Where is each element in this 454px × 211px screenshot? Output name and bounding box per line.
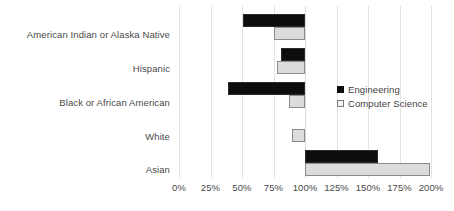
- x-tick-label-0: 0%: [172, 182, 186, 193]
- x-tick-label-25: 25%: [201, 182, 220, 193]
- x-tick-label-125: 125%: [324, 182, 349, 193]
- bar-computer-science: [274, 27, 306, 40]
- bar-engineering: [228, 82, 305, 95]
- x-tick-label-50: 50%: [232, 182, 251, 193]
- legend-swatch-engineering-icon: [337, 86, 344, 93]
- bar-computer-science: [289, 95, 305, 108]
- bar-engineering: [281, 48, 305, 61]
- bar-engineering: [243, 14, 305, 27]
- x-tick-label-200: 200%: [419, 182, 444, 193]
- y-axis-label-3: White: [145, 131, 170, 142]
- legend-item-engineering: Engineering: [337, 82, 428, 96]
- y-axis-label-2: Black or African American: [59, 97, 170, 108]
- legend-label-computer-science: Computer Science: [348, 98, 428, 109]
- chart-container: American Indian or Alaska Native Hispani…: [0, 0, 454, 211]
- legend-label-engineering: Engineering: [348, 84, 400, 95]
- y-axis-category-labels: American Indian or Alaska Native Hispani…: [0, 0, 174, 211]
- bar-computer-science: [292, 129, 305, 142]
- bar-group: [179, 150, 431, 176]
- x-tick-label-100: 100%: [293, 182, 318, 193]
- bar-computer-science: [277, 61, 305, 74]
- y-axis-label-1: Hispanic: [133, 63, 170, 74]
- chart-legend: Engineering Computer Science: [337, 82, 428, 110]
- bar-group: [179, 48, 431, 74]
- bar-computer-science: [305, 163, 430, 176]
- x-tick-label-175: 175%: [387, 182, 412, 193]
- x-tick-label-75: 75%: [264, 182, 283, 193]
- legend-item-computer-science: Computer Science: [337, 96, 428, 110]
- bar-engineering: [305, 150, 378, 163]
- x-axis-tick-labels: 0%25%50%75%100%125%150%175%200%: [0, 182, 454, 198]
- y-axis-label-4: Asian: [146, 164, 170, 175]
- gridline-200: [431, 6, 432, 178]
- bar-group: [179, 116, 431, 142]
- x-tick-label-150: 150%: [356, 182, 381, 193]
- y-axis-label-0: American Indian or Alaska Native: [27, 29, 170, 40]
- bar-group: [179, 14, 431, 40]
- legend-swatch-computer-science-icon: [337, 100, 344, 107]
